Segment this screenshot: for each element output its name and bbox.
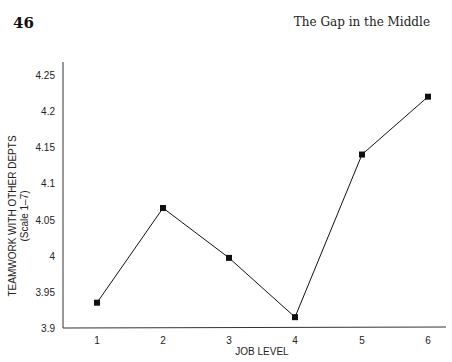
data-point-marker	[226, 255, 232, 261]
x-tick-label: 6	[425, 335, 431, 346]
y-tick-label: 4.15	[36, 142, 56, 153]
line-chart: 3.93.9544.054.14.154.24.25 123456 JOB LE…	[0, 0, 452, 362]
x-axis-title: JOB LEVEL	[235, 346, 289, 357]
y-tick-label: 4	[49, 251, 55, 262]
y-axis-title: TEAMWORK WITH OTHER DEPTS	[7, 135, 18, 296]
data-point-marker	[425, 94, 431, 100]
x-tick-label: 2	[160, 335, 166, 346]
data-point-marker	[94, 300, 100, 306]
y-tick-label: 3.9	[41, 323, 55, 334]
x-tick-label: 1	[94, 335, 100, 346]
x-tick-label: 3	[226, 335, 232, 346]
y-axis: 3.93.9544.054.14.154.24.25	[36, 62, 63, 334]
data-point-marker	[292, 314, 298, 320]
x-axis: 123456	[63, 327, 446, 346]
y-tick-label: 4.2	[41, 106, 55, 117]
data-series	[94, 94, 431, 320]
data-point-marker	[160, 205, 166, 211]
y-tick-label: 4.05	[36, 215, 56, 226]
x-tick-labels: 123456	[94, 335, 431, 346]
y-tick-label: 4.1	[41, 178, 55, 189]
y-axis-subtitle: (Scale 1–7)	[19, 190, 30, 241]
y-tick-label: 3.95	[36, 287, 56, 298]
y-tick-labels: 3.93.9544.054.14.154.24.25	[36, 70, 56, 334]
y-tick-label: 4.25	[36, 70, 56, 81]
data-point-marker	[359, 152, 365, 158]
series-line	[97, 97, 428, 317]
x-tick-label: 5	[359, 335, 365, 346]
x-tick-label: 4	[292, 335, 298, 346]
